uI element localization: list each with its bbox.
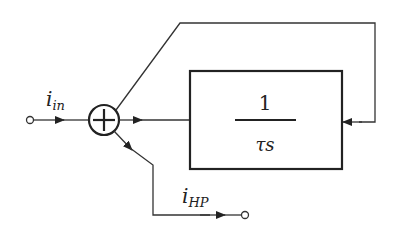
block-numerator: 1 — [259, 91, 272, 115]
block-denominator: τs — [255, 134, 274, 155]
block-diagram: iin 1 τs iHP — [0, 0, 397, 234]
output-label: iHP — [182, 184, 209, 210]
output-terminal — [242, 212, 249, 219]
summing-junction — [89, 105, 119, 135]
input-terminal — [27, 117, 34, 124]
output-diagonal — [114, 131, 132, 150]
input-label: iin — [46, 87, 65, 113]
